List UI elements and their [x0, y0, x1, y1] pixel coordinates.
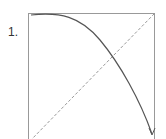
diagram	[0, 0, 166, 139]
curve	[31, 14, 152, 134]
dashed-diagonal	[30, 14, 154, 139]
